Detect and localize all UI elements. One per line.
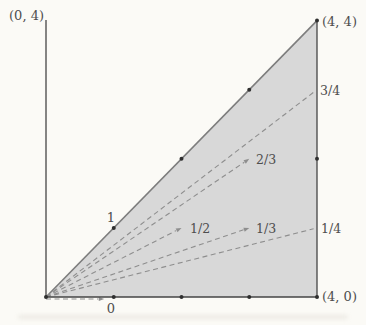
lattice-dot-0-0 xyxy=(44,295,48,299)
label-vertex-4-0: (4, 0) xyxy=(322,289,357,304)
scan-smudge xyxy=(18,315,348,319)
lattice-dot-4-2 xyxy=(315,157,319,161)
lattice-dot-1-1 xyxy=(112,226,116,230)
figure-svg: (0, 4)(4, 4)(4, 0)13/42/31/21/31/40 xyxy=(0,0,366,325)
label-slope-0: 0 xyxy=(107,301,115,316)
lattice-dot-4-4 xyxy=(315,19,319,23)
label-slope-1-2: 1/2 xyxy=(190,221,210,236)
label-vertex-0-4: (0, 4) xyxy=(9,8,44,23)
lattice-dot-1-0 xyxy=(112,295,116,299)
lattice-dot-3-0 xyxy=(247,295,251,299)
label-vertex-4-4: (4, 4) xyxy=(322,14,357,29)
label-slope-2-3: 2/3 xyxy=(256,152,276,167)
lattice-dot-2-0 xyxy=(180,295,184,299)
lattice-dot-2-2 xyxy=(180,157,184,161)
label-slope-1-3: 1/3 xyxy=(256,221,276,236)
lattice-dot-3-3 xyxy=(247,88,251,92)
label-slope-1-4: 1/4 xyxy=(321,221,341,236)
label-slope-3-4: 3/4 xyxy=(320,83,340,98)
label-slope-1: 1 xyxy=(107,210,115,225)
lattice-dot-4-0 xyxy=(315,295,319,299)
triangle-slope-diagram: (0, 4)(4, 4)(4, 0)13/42/31/21/31/40 xyxy=(0,0,366,325)
